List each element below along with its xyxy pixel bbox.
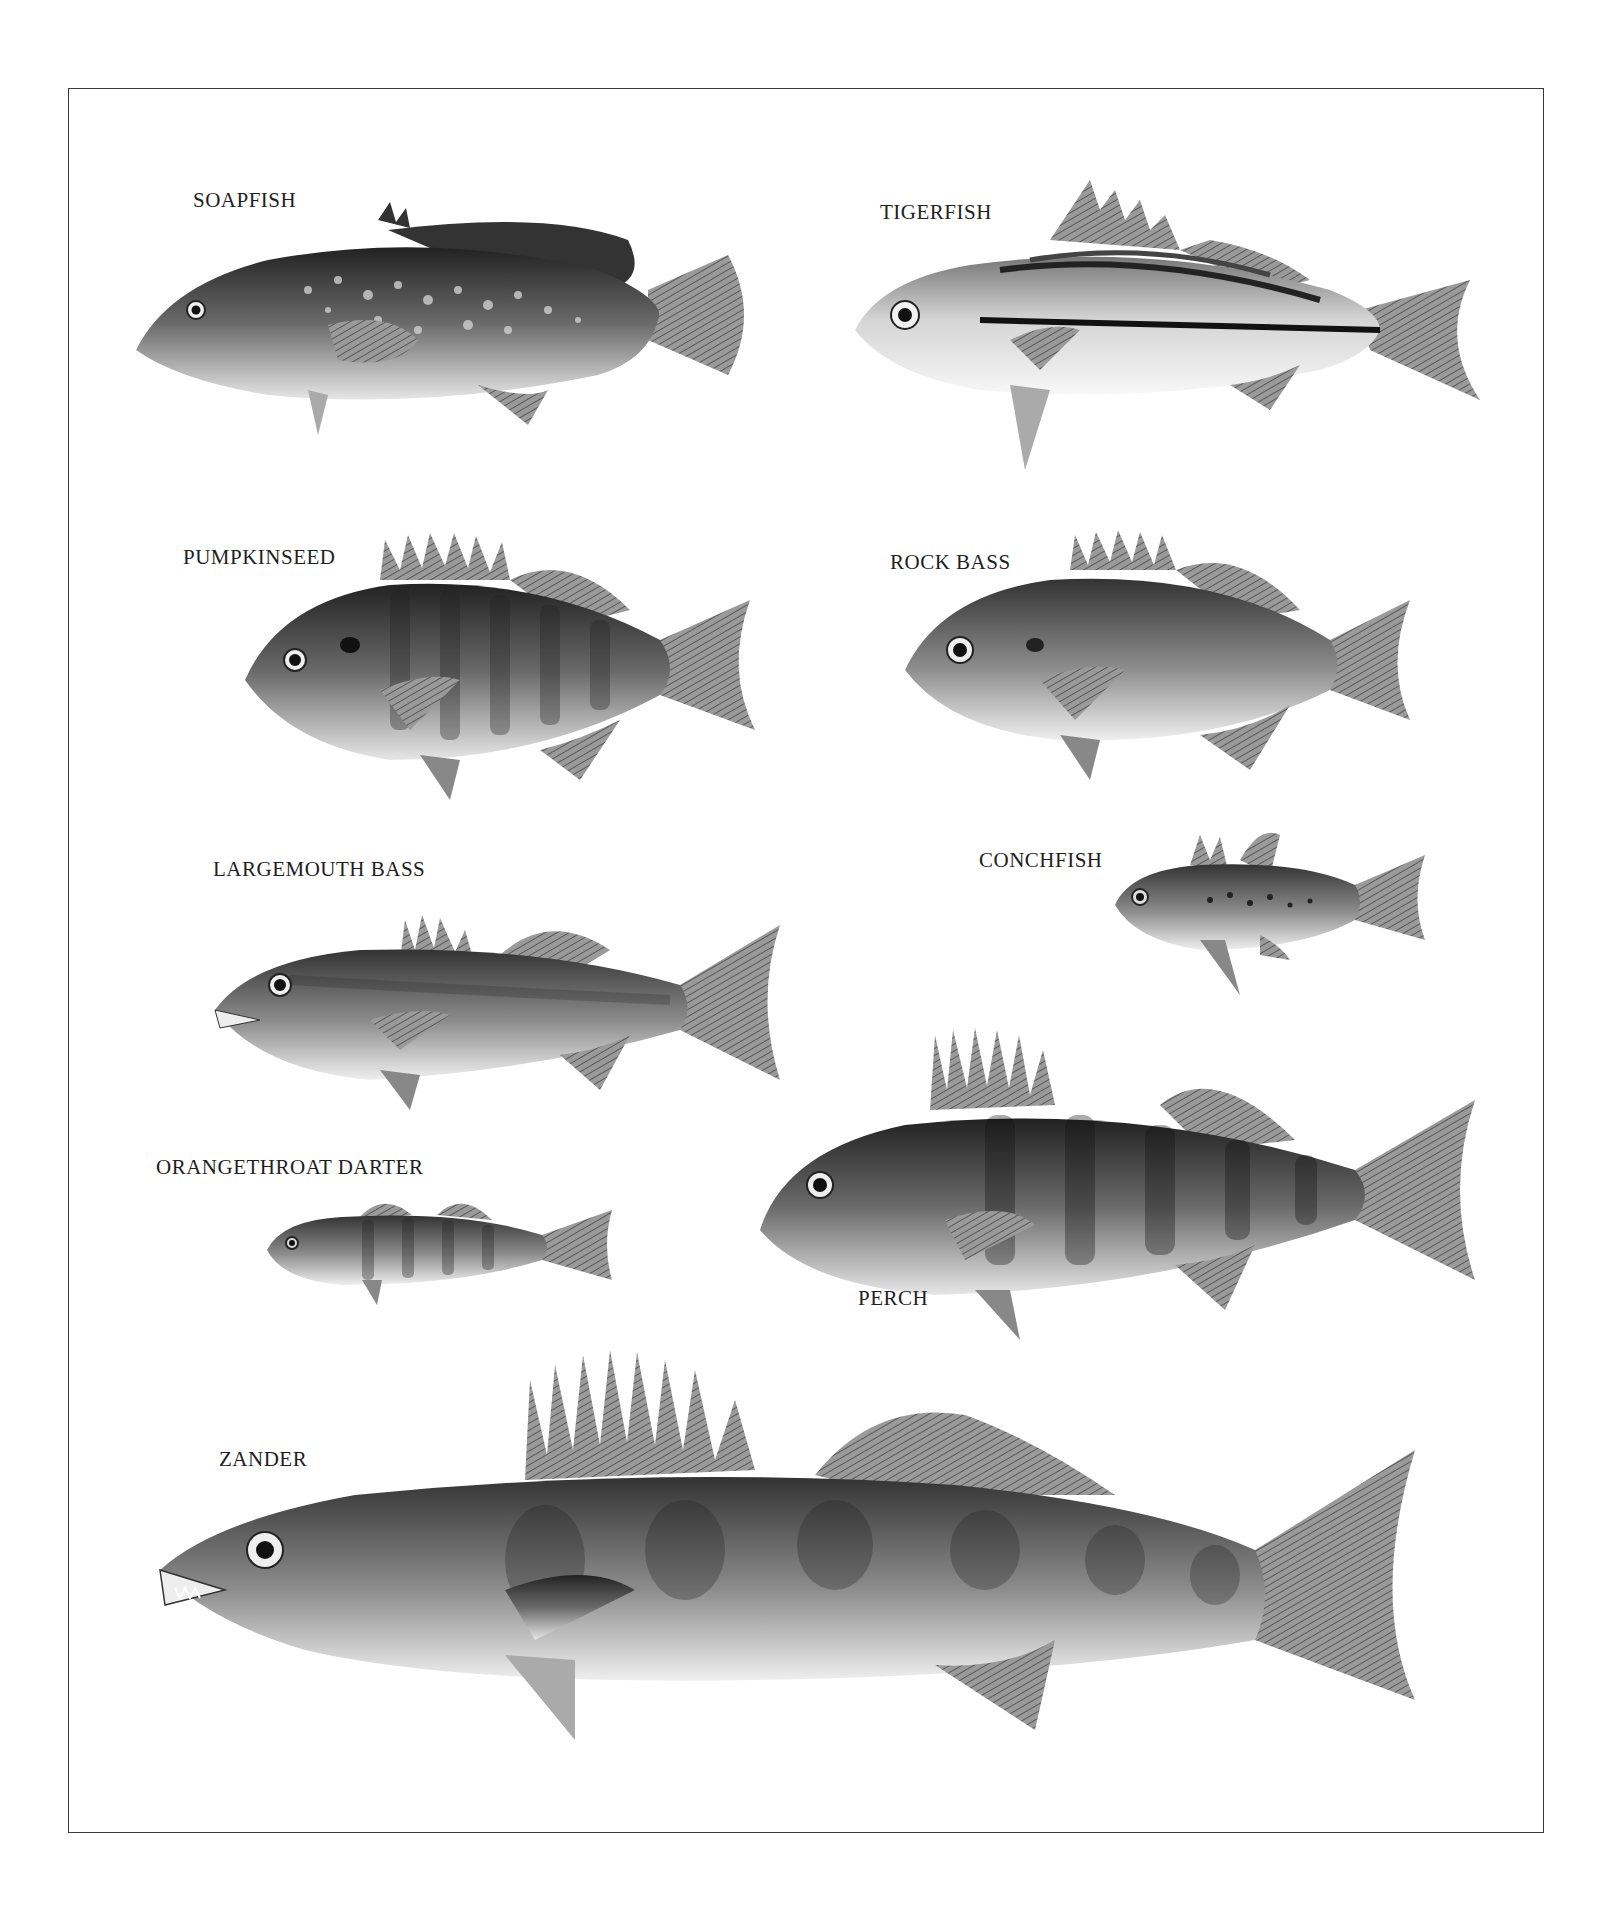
fish-illustration-largemouth-bass [210,890,800,1130]
fish-label-orangethroat-darter: ORANGETHROAT DARTER [156,1157,423,1178]
fish-illustration-zander [155,1320,1425,1760]
fish-illustration-conchfish [1110,825,1435,1000]
fish-illustration-rock-bass [900,530,1420,790]
fish-illustration-soapfish [128,200,768,440]
fish-label-conchfish: CONCHFISH [979,850,1103,871]
fish-illustration-pumpkinseed [240,530,780,810]
fish-illustration-tigerfish [850,180,1490,480]
fish-label-largemouth-bass: LARGEMOUTH BASS [213,859,425,880]
fish-label-perch: PERCH [858,1288,928,1309]
fish-illustration-orangethroat-darter [262,1185,622,1305]
